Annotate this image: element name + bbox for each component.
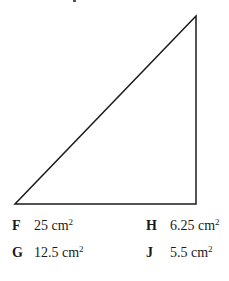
choice-letter: J (146, 245, 153, 261)
choice-value: 25 cm (34, 218, 69, 233)
choice-letter: G (12, 245, 23, 261)
choice-letter: H (146, 218, 157, 234)
choice-f[interactable]: F 25 cm2 (12, 218, 21, 234)
exponent: 2 (215, 217, 220, 227)
choice-h[interactable]: H 6.25 cm2 (146, 218, 157, 234)
exponent: 2 (69, 217, 74, 227)
exponent: 2 (208, 244, 213, 254)
choice-value: 5.5 cm (170, 245, 208, 260)
right-triangle-diagram (0, 0, 229, 215)
choice-value: 6.25 cm (170, 218, 215, 233)
choice-g[interactable]: G 12.5 cm2 (12, 245, 23, 261)
exponent: 2 (79, 244, 84, 254)
choice-j[interactable]: J 5.5 cm2 (146, 245, 153, 261)
triangle (15, 16, 196, 204)
choice-letter: F (12, 218, 21, 234)
choice-value: 12.5 cm (34, 245, 79, 260)
